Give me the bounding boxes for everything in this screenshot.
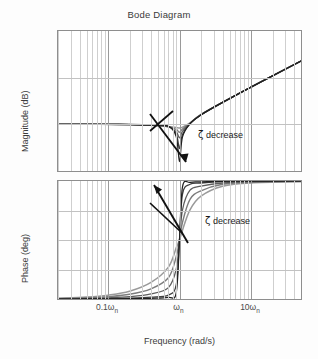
phase-plot-panel: 04590135180: [57, 180, 302, 300]
x-tick-label: 10ωn: [240, 302, 260, 314]
x-axis-label: Frequency (rad/s): [57, 336, 302, 346]
zeta-symbol-phase: ζ: [205, 215, 210, 226]
magnitude-annotation-text: decrease: [206, 130, 243, 140]
magnitude-annotation-arrow: [58, 31, 301, 171]
zeta-symbol-magnitude: ζ: [198, 129, 203, 140]
phase-axis-label: Phase (deg): [20, 234, 30, 283]
x-tick-label: 0.1ωn: [96, 302, 118, 314]
chart-title: Bode Diagram: [0, 9, 318, 20]
magnitude-axis-label: Magnitude (dB): [20, 90, 30, 152]
magnitude-zeta-annotation: ζ decrease: [198, 129, 243, 140]
phase-zeta-annotation: ζ decrease: [205, 215, 250, 226]
phase-annotation-text: decrease: [213, 216, 250, 226]
x-tick-label: ωn: [173, 302, 183, 314]
phase-annotation-arrow: [58, 181, 301, 299]
magnitude-plot-panel: -50050100: [57, 30, 302, 172]
bode-diagram-figure: Bode Diagram Magnitude (dB) -50050100 ζ …: [0, 0, 318, 359]
